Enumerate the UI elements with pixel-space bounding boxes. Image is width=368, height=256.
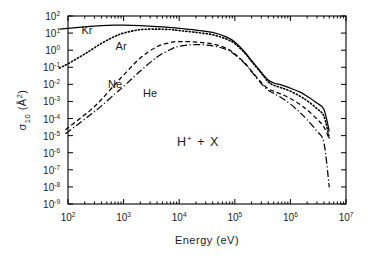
series-label-he: He	[143, 87, 157, 99]
series-label-ne: Ne	[108, 78, 122, 90]
series-label-ar: Ar	[116, 40, 127, 52]
figure-container: 10210110010-110-210-310-410-510-610-710-…	[0, 0, 368, 256]
x-axis-title: Energy (eV)	[175, 234, 239, 246]
series-label-kr: Kr	[82, 24, 93, 36]
cross-section-chart: 10210110010-110-210-310-410-510-610-710-…	[0, 0, 368, 256]
reaction-annotation: H+ + X	[177, 134, 219, 149]
